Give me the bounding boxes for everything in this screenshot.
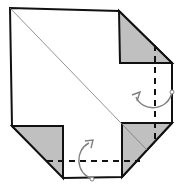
pivot-circle-icon — [90, 177, 94, 181]
bottom-left-flap — [12, 126, 63, 178]
pivot-circle-icon — [170, 90, 174, 94]
top-right-flap — [119, 11, 172, 63]
origami-diagram — [0, 0, 183, 190]
